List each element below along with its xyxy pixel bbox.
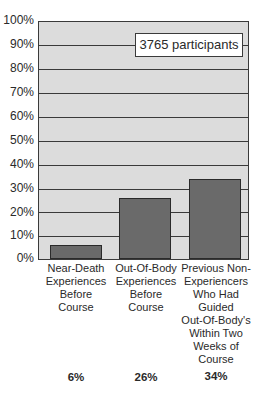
y-tick-30: 30% — [0, 182, 34, 194]
category-label-guided: Previous Non- Experiencers Who Had Guide… — [176, 262, 256, 366]
y-tick-100: 100% — [0, 14, 34, 26]
y-tick-10: 10% — [0, 229, 34, 241]
category-label-near-death: Near-Death Experiences Before Course — [40, 262, 112, 314]
gridline-50 — [39, 141, 248, 142]
value-label-near-death: 6% — [46, 371, 106, 383]
bar-out-of-body — [119, 198, 171, 259]
y-tick-0: 0% — [0, 252, 34, 264]
gridline-60 — [39, 117, 248, 118]
y-tick-90: 90% — [0, 38, 34, 50]
y-tick-50: 50% — [0, 134, 34, 146]
y-tick-70: 70% — [0, 86, 34, 98]
plot-area: 3765 participants — [38, 21, 249, 260]
y-tick-20: 20% — [0, 206, 34, 218]
value-label-guided: 34% — [186, 370, 246, 382]
gridline-40 — [39, 165, 248, 166]
bar-near-death — [50, 245, 102, 259]
gridline-70 — [39, 93, 248, 94]
gridline-80 — [39, 69, 248, 70]
y-tick-60: 60% — [0, 110, 34, 122]
bar-guided-out-of-body — [189, 179, 241, 259]
category-label-out-of-body: Out-Of-Body Experiences Before Course — [110, 262, 182, 314]
y-tick-40: 40% — [0, 158, 34, 170]
participants-annotation: 3765 participants — [135, 33, 243, 57]
value-label-out-of-body: 26% — [116, 371, 176, 383]
y-tick-80: 80% — [0, 62, 34, 74]
